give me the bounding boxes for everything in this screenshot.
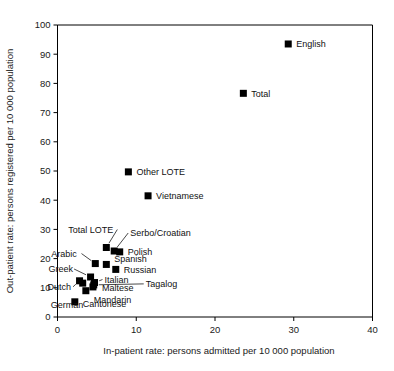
y-axis-tick-label: 90 [40, 49, 51, 60]
y-axis-tick-label: 40 [40, 195, 51, 206]
label-leader-line [99, 280, 102, 281]
y-axis-tick-label: 70 [40, 107, 51, 118]
data-point-label: German [51, 300, 84, 310]
x-axis-tick-label: 30 [288, 324, 299, 335]
label-leader-line [73, 284, 76, 287]
data-point-label: Spanish [114, 254, 147, 264]
data-point-label: Other LOTE [136, 167, 185, 177]
data-point-label: Russian [124, 265, 157, 275]
data-point-marker [240, 90, 247, 97]
label-leader-line [82, 254, 92, 261]
label-leader-line [74, 269, 86, 275]
data-point-marker [285, 40, 292, 47]
label-leader-line [117, 233, 128, 247]
data-point-marker [82, 287, 89, 294]
y-axis-tick-label: 20 [40, 253, 51, 264]
data-point-label: Arabic [51, 249, 77, 259]
data-point-marker [145, 192, 152, 199]
x-axis-title: In-patient rate: persons admitted per 10… [103, 345, 334, 356]
y-axis-title: Out-patient rate: persons registered per… [4, 49, 15, 294]
x-axis-tick-label: 0 [55, 324, 60, 335]
data-point-marker [92, 260, 99, 267]
data-point-marker [125, 168, 132, 175]
x-axis-tick-label: 20 [210, 324, 221, 335]
data-point-marker [79, 280, 86, 287]
data-point-marker [103, 244, 110, 251]
y-axis-tick-label: 100 [35, 19, 51, 30]
data-point-label: Maltese [102, 283, 134, 293]
y-axis-tick-label: 80 [40, 78, 51, 89]
y-axis-tick-label: 0 [45, 311, 50, 322]
data-point-label: Tagalog [146, 279, 178, 289]
data-point-label: Total LOTE [68, 225, 113, 235]
data-point-label: Greek [49, 264, 74, 274]
data-point-label: Cantonese [83, 299, 127, 309]
plot-frame [58, 25, 373, 317]
data-point-marker [103, 261, 110, 268]
data-point-label: Dutch [48, 282, 72, 292]
y-axis-tick-label: 50 [40, 165, 51, 176]
x-axis-tick-label: 40 [367, 324, 378, 335]
x-axis-tick-label: 10 [131, 324, 142, 335]
data-point-marker [112, 266, 119, 273]
y-axis-tick-label: 60 [40, 136, 51, 147]
y-axis-tick-label: 30 [40, 224, 51, 235]
point-labels: EnglishTotalOther LOTEVietnameseTotal LO… [48, 39, 326, 310]
chart-canvas: 0102030400102030405060708090100 EnglishT… [0, 0, 394, 371]
scatter-plot-figure: 0102030400102030405060708090100 EnglishT… [0, 0, 394, 371]
data-point-label: English [296, 39, 326, 49]
data-point-label: Serbo/Croatian [130, 228, 191, 238]
data-point-label: Vietnamese [156, 191, 203, 201]
data-point-label: Total [251, 89, 270, 99]
data-point-marker [89, 283, 96, 290]
